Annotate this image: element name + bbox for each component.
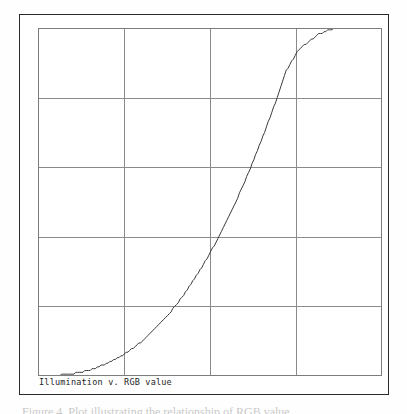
below-frame-caption: Figure 4. Plot illustrating the relation… <box>22 405 382 414</box>
figure-root: Illumination v. RGB value Figure 4. Plot… <box>0 0 407 414</box>
plot-svg <box>38 28 382 376</box>
chart-frame: Illumination v. RGB value <box>19 14 389 395</box>
plot-panel <box>38 28 382 376</box>
plot-caption: Illumination v. RGB value <box>39 377 172 388</box>
